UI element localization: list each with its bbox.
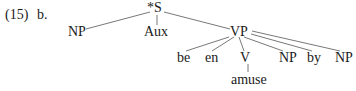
node-en: en bbox=[205, 51, 218, 65]
node-np-object: NP bbox=[279, 51, 297, 65]
node-v: V bbox=[240, 51, 250, 65]
node-vp: VP bbox=[230, 25, 248, 39]
node-by: by bbox=[307, 51, 321, 65]
node-root-s: *S bbox=[147, 1, 162, 15]
edge-vp-v bbox=[239, 37, 244, 51]
edge-s-np bbox=[86, 12, 150, 29]
node-np-agent: NP bbox=[335, 51, 353, 65]
tree-edges bbox=[0, 0, 356, 91]
node-aux: Aux bbox=[144, 25, 168, 39]
node-be: be bbox=[177, 51, 190, 65]
edge-vp-np bbox=[244, 37, 283, 51]
example-sublabel: b. bbox=[37, 8, 48, 22]
node-np-subject: NP bbox=[68, 25, 86, 39]
edge-s-vp bbox=[164, 12, 230, 29]
edge-vp-np-agent bbox=[252, 31, 340, 51]
node-amuse: amuse bbox=[231, 73, 267, 87]
example-number: (15) bbox=[5, 8, 28, 22]
